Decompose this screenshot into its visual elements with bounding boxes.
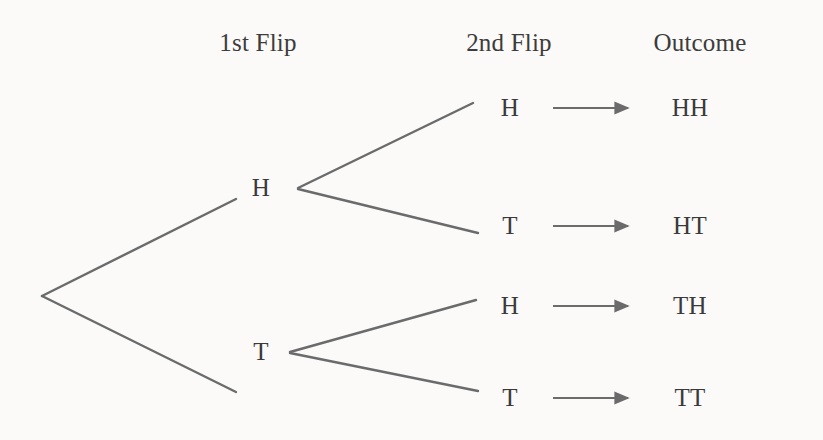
first-flip-node-h-0: H: [252, 174, 270, 202]
second-flip-node-t-1: T: [502, 212, 518, 240]
column-header-outcome-2: Outcome: [653, 29, 746, 57]
first-flip-node-t-1: T: [253, 338, 269, 366]
outcome-tt-3: TT: [674, 384, 705, 412]
probability-tree-figure: 1st Flip2nd FlipOutcome HT HTHT HHHTTHTT: [0, 0, 823, 440]
tree-branch-T-to-T: [290, 353, 478, 391]
column-header-1st flip-0: 1st Flip: [219, 29, 296, 57]
tree-branch-H-to-H: [298, 103, 473, 188]
outcome-th-2: TH: [673, 292, 707, 320]
outcome-arrows: [553, 108, 628, 398]
second-flip-node-h-2: H: [501, 292, 519, 320]
outcome-ht-1: HT: [673, 212, 707, 240]
outcome-hh-0: HH: [672, 94, 709, 122]
tree-branch-root-to-T: [42, 296, 236, 392]
second-flip-node-t-3: T: [502, 384, 518, 412]
tree-branch-T-to-H: [290, 300, 476, 352]
tree-branch-H-to-T: [298, 189, 478, 233]
column-header-2nd flip-1: 2nd Flip: [466, 29, 552, 57]
tree-branch-root-to-H: [42, 199, 236, 296]
second-flip-node-h-0: H: [501, 94, 519, 122]
